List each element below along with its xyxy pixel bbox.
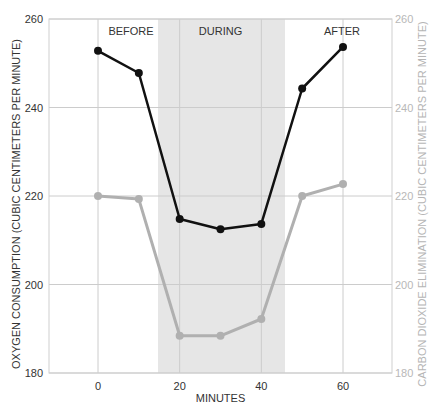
y-tick-label-right: 180 <box>395 367 413 379</box>
y-tick-label-right: 260 <box>395 13 413 25</box>
y-axis-label-left: OXYGEN CONSUMPTION (CUBIC CENTIMETERS PE… <box>10 39 22 369</box>
y-tick-label-left: 220 <box>25 190 43 202</box>
data-point <box>135 195 143 203</box>
data-point <box>94 192 102 200</box>
phase-label-after: AFTER <box>324 25 360 37</box>
y-axis-label-right: CARBON DIOXIDE ELIMINATION (CUBIC CENTIM… <box>416 21 428 386</box>
y-tick-label-left: 260 <box>25 13 43 25</box>
x-tick-label: 60 <box>337 380 349 392</box>
data-point <box>298 192 306 200</box>
data-point <box>176 332 184 340</box>
line-chart: BEFOREDURINGAFTER 0204060180200220240260… <box>0 0 437 410</box>
y-tick-label-left: 200 <box>25 279 43 291</box>
y-tick-label-right: 240 <box>395 102 413 114</box>
x-tick-label: 20 <box>174 380 186 392</box>
x-tick-label: 0 <box>95 380 101 392</box>
data-point <box>298 84 306 92</box>
data-point <box>257 315 265 323</box>
y-tick-label-left: 240 <box>25 102 43 114</box>
y-tick-label-left: 180 <box>25 367 43 379</box>
phase-labels: BEFOREDURINGAFTER <box>108 25 360 37</box>
x-axis-label: MINUTES <box>196 392 246 404</box>
data-point <box>217 332 225 340</box>
y-tick-label-right: 220 <box>395 190 413 202</box>
data-point <box>217 225 225 233</box>
data-point <box>94 47 102 55</box>
y-tick-label-right: 200 <box>395 279 413 291</box>
data-point <box>135 69 143 77</box>
data-point <box>257 220 265 228</box>
phase-label-before: BEFORE <box>108 25 153 37</box>
data-point <box>339 180 347 188</box>
x-tick-label: 40 <box>255 380 267 392</box>
data-point <box>339 43 347 51</box>
data-point <box>176 215 184 223</box>
phase-label-during: DURING <box>199 25 242 37</box>
